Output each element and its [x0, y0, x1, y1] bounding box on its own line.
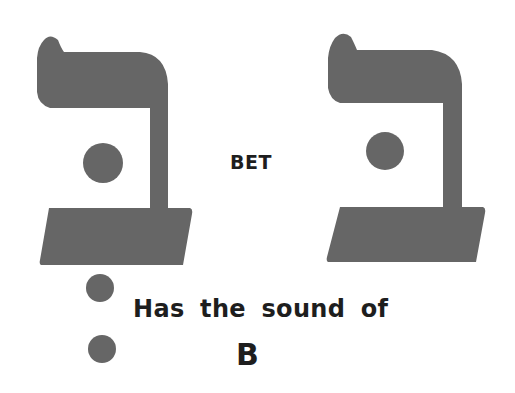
right-bet-letter — [327, 34, 486, 262]
vowel-dot-lower — [88, 335, 116, 363]
hebrew-letters-illustration — [0, 0, 515, 393]
letter-name: BET — [230, 151, 272, 173]
vowel-dot-upper — [86, 274, 114, 302]
sound-description: Has the sound of — [133, 295, 388, 323]
sound-letter: B — [236, 337, 259, 372]
inner-dot — [83, 143, 123, 183]
inner-dot — [366, 132, 404, 170]
